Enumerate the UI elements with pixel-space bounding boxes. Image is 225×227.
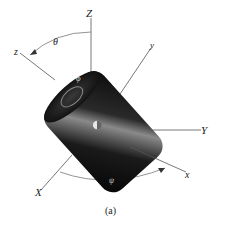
X-axis-label: X [34, 186, 43, 198]
cylinder [36, 62, 169, 198]
Y-axis-label: Y [201, 124, 209, 136]
figure-caption: (a) [105, 205, 116, 217]
y-axis-label: y [149, 40, 154, 50]
theta-label: θ [53, 36, 58, 47]
y-axis-line [116, 48, 151, 100]
center-marker [93, 121, 102, 130]
X-axis-line [41, 155, 72, 190]
z-axis-line [20, 53, 55, 80]
phi-label: ϕ [76, 73, 81, 83]
theta-arc [30, 32, 91, 55]
x-axis-label: x [184, 169, 190, 180]
cylinder-body [38, 65, 168, 198]
Z-axis-label: Z [86, 7, 93, 19]
z-axis-label: z [13, 46, 18, 57]
euler-angle-cylinder-diagram: Z θ z y Y X x ϕ ψ (a) [0, 0, 225, 227]
